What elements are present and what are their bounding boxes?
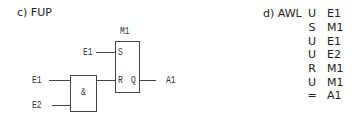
- awl-title: d) AWL: [263, 8, 302, 19]
- awl-arg: E2: [327, 49, 341, 60]
- awl-op: U: [306, 36, 318, 47]
- reset-pin-label: R: [118, 76, 123, 86]
- awl-arg: M1: [327, 77, 344, 88]
- awl-op: =: [306, 90, 318, 101]
- awl-op: U: [306, 8, 318, 19]
- set-pin-label: S: [118, 48, 123, 58]
- set-input-label: E1: [83, 48, 93, 58]
- and-input-1-label: E1: [32, 76, 42, 86]
- awl-arg: M1: [327, 22, 344, 33]
- awl-op: U: [306, 49, 318, 60]
- and-input-2-label: E2: [32, 101, 42, 111]
- awl-arg: E1: [327, 36, 341, 47]
- sr-block-label: M1: [120, 27, 130, 37]
- and-gate-symbol: &: [81, 88, 86, 98]
- awl-op: U: [306, 77, 318, 88]
- awl-arg: E1: [327, 8, 341, 19]
- awl-op: R: [306, 63, 318, 74]
- awl-arg: M1: [327, 63, 344, 74]
- output-label: A1: [166, 76, 176, 86]
- output-pin-label: Q: [131, 76, 136, 86]
- awl-arg: A1: [327, 90, 342, 101]
- awl-op: S: [306, 22, 318, 33]
